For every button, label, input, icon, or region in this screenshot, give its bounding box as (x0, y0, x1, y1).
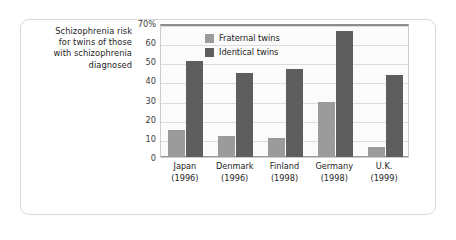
y-axis-tick: 20 (128, 115, 156, 125)
legend-label-identical: Identical twins (219, 47, 278, 57)
bar-fraternal (268, 138, 285, 157)
legend-entry-identical: Identical twins (205, 47, 280, 57)
y-axis-tick: 10 (128, 134, 156, 144)
y-axis-tick: 60 (128, 38, 156, 48)
x-axis-year: (1996) (160, 173, 210, 185)
legend-swatch-fraternal-icon (205, 34, 214, 43)
legend-swatch-identical-icon (205, 48, 214, 57)
caption-line-4: diagnosed (10, 60, 132, 71)
x-axis-category-label: Germany(1998) (309, 161, 359, 184)
x-axis-country: Germany (309, 161, 359, 173)
x-axis-labels: Japan(1996)Denmark(1996)Finland(1998)Ger… (160, 161, 409, 189)
y-axis-tick: 30 (128, 96, 156, 106)
bar-fraternal (218, 136, 235, 157)
x-axis-year: (1998) (309, 173, 359, 185)
x-axis-category-label: Denmark(1996) (210, 161, 260, 184)
bar-group (360, 26, 410, 157)
bar-identical (186, 61, 203, 157)
y-axis-tick: 40 (128, 76, 156, 86)
x-axis-country: Japan (160, 161, 210, 173)
bar-group (161, 26, 211, 157)
plot-panel: Fraternal twins Identical twins (160, 24, 409, 158)
bar-series-container (161, 26, 408, 157)
screenshot-root: Schizophrenia risk for twins of those wi… (0, 0, 456, 240)
x-axis-category-label: Japan(1996) (160, 161, 210, 184)
bar-group (310, 26, 360, 157)
y-axis-tick: 70% (128, 19, 156, 29)
legend-label-fraternal: Fraternal twins (219, 33, 280, 43)
x-axis-country: U.K. (359, 161, 409, 173)
bar-identical (236, 73, 253, 157)
bar-identical (336, 31, 353, 157)
y-axis-tick: 50 (128, 57, 156, 67)
bar-fraternal (168, 130, 185, 157)
bar-identical (386, 75, 403, 157)
legend-entry-fraternal: Fraternal twins (205, 33, 280, 43)
x-axis-category-label: U.K.(1999) (359, 161, 409, 184)
bar-chart: 70%6050403020100 Fraternal twins Identic… (128, 24, 410, 192)
caption-line-1: Schizophrenia risk (10, 26, 132, 37)
caption-line-3: with schizophrenia (10, 48, 132, 59)
x-axis-country: Finland (260, 161, 310, 173)
y-axis-labels: 70%6050403020100 (128, 24, 156, 158)
chart-legend: Fraternal twins Identical twins (205, 33, 280, 61)
x-axis-year: (1998) (260, 173, 310, 185)
bar-fraternal (318, 102, 335, 158)
y-axis-tick: 0 (128, 153, 156, 163)
x-axis-category-label: Finland(1998) (260, 161, 310, 184)
chart-caption: Schizophrenia risk for twins of those wi… (10, 26, 132, 71)
caption-line-2: for twins of those (10, 37, 132, 48)
bar-fraternal (368, 147, 385, 157)
x-axis-year: (1996) (210, 173, 260, 185)
bar-identical (286, 69, 303, 157)
x-axis-country: Denmark (210, 161, 260, 173)
x-axis-year: (1999) (359, 173, 409, 185)
